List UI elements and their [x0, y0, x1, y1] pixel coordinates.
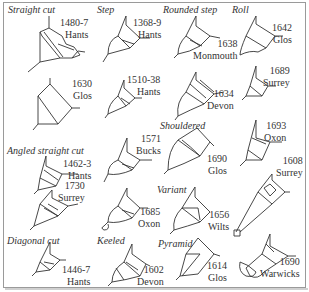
- example-label-1446: 1446-7Hants: [62, 264, 90, 288]
- county: Surrey: [58, 192, 85, 204]
- date: 1642: [272, 22, 292, 34]
- county: Glos: [272, 34, 292, 46]
- example-label-1510: 1510-38Hants: [127, 74, 160, 98]
- county: Surrey: [263, 77, 290, 89]
- county: Hants: [60, 29, 88, 41]
- category-angled-straight-cut: Angled straight cut: [7, 145, 84, 156]
- example-label-1480: 1480-7Hants: [60, 17, 88, 41]
- county: Devon: [137, 276, 164, 288]
- example-label-1630: 1630Glos: [72, 78, 92, 102]
- county: Monmouth: [193, 50, 237, 62]
- date: 1689: [263, 65, 290, 77]
- date: 1614: [207, 260, 227, 272]
- date: 1634: [207, 88, 234, 100]
- category-step: Step: [97, 4, 114, 15]
- county: Bucks: [136, 145, 161, 157]
- example-label-1642: 1642Glos: [272, 22, 292, 46]
- date: 1693: [264, 120, 286, 132]
- example-label-1462: 1462-3Hants: [63, 158, 91, 182]
- example-label-1638: 1638Monmouth: [193, 38, 237, 62]
- county: Wilts: [208, 221, 229, 233]
- county: Hants: [127, 86, 160, 98]
- county: Hants: [62, 276, 90, 288]
- example-label-1689: 1689Surrey: [263, 65, 290, 89]
- example-label-1608: 1608Surrey: [276, 155, 303, 179]
- category-roll: Roll: [232, 4, 249, 15]
- date: 1690: [260, 256, 300, 268]
- example-label-1602: 1602Devon: [137, 264, 164, 288]
- date: 1368-9: [133, 17, 161, 29]
- county: Devon: [207, 100, 234, 112]
- date: 1685: [138, 206, 160, 218]
- date: 1630: [72, 78, 92, 90]
- example-label-1368: 1368-9Hants: [133, 17, 161, 41]
- date: 1462-3: [63, 158, 91, 170]
- county: Oxon: [138, 218, 160, 230]
- example-label-1693: 1693Oxon: [264, 120, 286, 144]
- drawing-variant-1608: [234, 174, 290, 236]
- example-label-1634: 1634Devon: [207, 88, 234, 112]
- county: Hants: [133, 29, 161, 41]
- date: 1602: [137, 264, 164, 276]
- date: 1480-7: [60, 17, 88, 29]
- date: 1638: [193, 38, 237, 50]
- date: 1571: [136, 133, 161, 145]
- category-keeled: Keeled: [97, 235, 125, 246]
- date: 1510-38: [127, 74, 160, 86]
- county: Glos: [72, 90, 92, 102]
- date: 1690: [207, 153, 227, 165]
- example-label-1690-warwicks: 1690Warwicks: [260, 256, 300, 280]
- date: 1608: [276, 155, 303, 167]
- category-rounded-step: Rounded step: [163, 4, 217, 15]
- county: Oxon: [264, 132, 286, 144]
- example-label-1685: 1685Oxon: [138, 206, 160, 230]
- category-pyramid: Pyramid: [158, 238, 192, 249]
- county: Glos: [207, 272, 227, 284]
- example-label-1690-glos: 1690Glos: [207, 153, 227, 177]
- category-straight-cut: Straight cut: [8, 4, 55, 15]
- example-label-1656: 1656Wilts: [208, 209, 229, 233]
- county: Surrey: [276, 167, 303, 179]
- example-label-1571: 1571Bucks: [136, 133, 161, 157]
- category-variant: Variant: [157, 184, 186, 195]
- category-shouldered: Shouldered: [160, 120, 205, 131]
- date: 1446-7: [62, 264, 90, 276]
- date: 1730: [58, 180, 85, 192]
- category-diagonal-cut: Diagonal cut: [7, 235, 60, 246]
- example-label-1730: 1730Surrey: [58, 180, 85, 204]
- drawing-diagonal-1446: [32, 242, 66, 276]
- date: 1656: [208, 209, 229, 221]
- county: Glos: [207, 165, 227, 177]
- county: Warwicks: [260, 268, 300, 280]
- example-label-1614: 1614Glos: [207, 260, 227, 284]
